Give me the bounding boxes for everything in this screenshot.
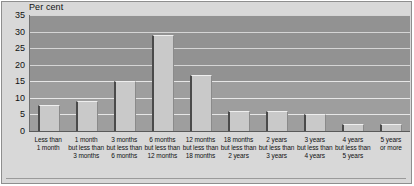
- bar-slot: [144, 15, 182, 131]
- category-label: 6 months but less than 12 months: [143, 133, 181, 177]
- category-label: 2 years but less than 3 years: [258, 133, 296, 177]
- category-label: 18 months but less than 2 years: [219, 133, 257, 177]
- bar: [228, 111, 250, 131]
- category-label: 12 months but less than 18 months: [181, 133, 219, 177]
- plot-area: [29, 15, 410, 131]
- bottom-rule: [6, 178, 406, 179]
- bar-slot: [258, 15, 296, 131]
- category-label: 1 month but less than 3 months: [67, 133, 105, 177]
- bar: [114, 81, 136, 131]
- y-axis-tick-5: 5: [20, 110, 25, 119]
- bar: [190, 75, 212, 131]
- bar: [152, 35, 174, 131]
- bar-slot: [334, 15, 372, 131]
- bar-slot: [372, 15, 410, 131]
- bar-slot: [106, 15, 144, 131]
- category-label: 3 years but less than 4 years: [296, 133, 334, 177]
- y-axis-tick-labels: 05101520253035: [0, 15, 27, 131]
- y-axis-tick-35: 35: [15, 11, 25, 20]
- category-label: Less than 1 month: [29, 133, 67, 177]
- bar: [38, 105, 60, 132]
- bar-slot: [220, 15, 258, 131]
- bar: [76, 101, 98, 131]
- y-axis-tick-25: 25: [15, 44, 25, 53]
- y-axis-tick-10: 10: [15, 93, 25, 102]
- y-axis-tick-30: 30: [15, 27, 25, 36]
- y-axis-tick-0: 0: [20, 127, 25, 136]
- bar-slot: [182, 15, 220, 131]
- x-axis-category-labels: Less than 1 month1 month but less than 3…: [29, 133, 410, 177]
- bar: [266, 111, 288, 131]
- category-label: 3 months but less than 6 months: [105, 133, 143, 177]
- bar-series: [30, 15, 410, 131]
- bar: [304, 114, 326, 131]
- bar-slot: [30, 15, 68, 131]
- bar-slot: [296, 15, 334, 131]
- y-axis-unit-label: Per cent: [29, 2, 63, 12]
- y-axis-tick-15: 15: [15, 77, 25, 86]
- x-axis-baseline: [29, 131, 410, 132]
- category-label: 5 years or more: [372, 133, 410, 177]
- bar-slot: [68, 15, 106, 131]
- bar: [342, 124, 364, 131]
- bar-chart: Per cent 05101520253035 Less than 1 mont…: [0, 0, 414, 186]
- category-label: 4 years but less than 5 years: [334, 133, 372, 177]
- bar: [380, 124, 402, 131]
- y-axis-tick-20: 20: [15, 60, 25, 69]
